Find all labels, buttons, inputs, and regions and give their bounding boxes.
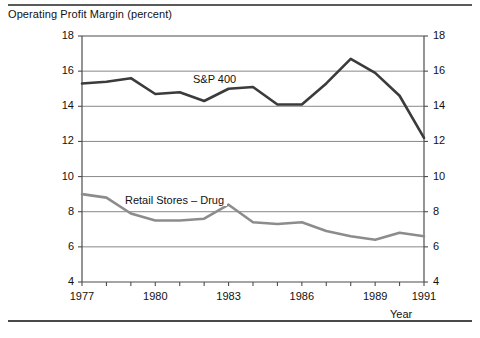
series-label-0: S&P 400 (190, 73, 239, 85)
x-axis-label-1986: 1986 (277, 290, 327, 302)
y-axis-label-right-14: 14 (433, 99, 465, 111)
series-label-1: Retail Stores – Drug (122, 194, 227, 206)
x-axis-title: Year (390, 308, 412, 320)
y-axis-label-right-16: 16 (433, 64, 465, 76)
y-axis-label-left-6: 6 (42, 240, 74, 252)
y-axis-label-right-4: 4 (433, 275, 465, 287)
y-axis-label-left-12: 12 (42, 134, 74, 146)
chart-figure: Operating Profit Margin (percent) 468101… (0, 0, 480, 338)
x-axis-label-1977: 1977 (57, 290, 107, 302)
x-axis-label-1983: 1983 (204, 290, 254, 302)
x-axis-label-1991: 1991 (399, 290, 449, 302)
y-axis-label-left-16: 16 (42, 64, 74, 76)
y-axis-label-right-18: 18 (433, 29, 465, 41)
data-series (82, 59, 424, 240)
gridlines (82, 71, 424, 247)
y-axis-label-right-12: 12 (433, 134, 465, 146)
y-axis-label-left-4: 4 (42, 275, 74, 287)
y-axis-label-right-6: 6 (433, 240, 465, 252)
y-axis-label-left-14: 14 (42, 99, 74, 111)
y-axis-label-right-10: 10 (433, 170, 465, 182)
y-axis-label-left-10: 10 (42, 170, 74, 182)
x-axis-label-1989: 1989 (350, 290, 400, 302)
y-axis-label-left-18: 18 (42, 29, 74, 41)
x-axis-label-1980: 1980 (130, 290, 180, 302)
y-axis-label-left-8: 8 (42, 205, 74, 217)
y-axis-label-right-8: 8 (433, 205, 465, 217)
